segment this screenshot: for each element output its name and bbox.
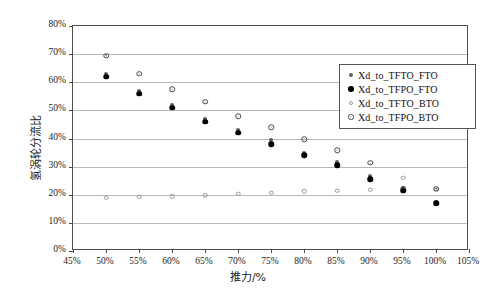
data-point (268, 125, 274, 131)
x-tick-mark (106, 249, 107, 253)
data-point (169, 105, 175, 111)
y-tick-label: 80% (32, 19, 66, 29)
y-tick-mark (69, 195, 73, 196)
x-tick-mark (337, 249, 338, 253)
data-point (400, 188, 406, 194)
gridline (73, 167, 467, 168)
y-tick-label: 0% (32, 244, 66, 254)
data-point (335, 188, 340, 193)
x-tick-mark (73, 249, 74, 253)
x-tick-mark (436, 249, 437, 253)
data-point (368, 187, 373, 192)
data-point (367, 160, 373, 166)
data-point (269, 190, 274, 195)
y-tick-label: 20% (32, 188, 66, 198)
x-tick-mark (205, 249, 206, 253)
data-point (301, 153, 307, 159)
x-tick-label: 105% (448, 256, 488, 266)
x-tick-mark (304, 249, 305, 253)
data-point (236, 192, 241, 197)
y-tick-label: 50% (32, 103, 66, 113)
data-point (302, 189, 307, 194)
y-tick-label: 40% (32, 132, 66, 142)
data-point (433, 186, 439, 192)
y-tick-mark (69, 139, 73, 140)
data-point (103, 53, 109, 59)
x-tick-mark (370, 249, 371, 253)
data-point (202, 99, 208, 105)
x-tick-mark (403, 249, 404, 253)
y-axis-title: 氢涡轮分流比 (27, 115, 43, 181)
y-tick-mark (69, 167, 73, 168)
y-tick-mark (69, 26, 73, 27)
plot-area: Xd_to_TFTO_FTOXd_to_TFPO_FTOXd_to_TFTO_B… (72, 25, 468, 250)
data-point (136, 91, 142, 97)
legend-item: Xd_to_TFPO_FTO (344, 82, 471, 96)
legend-label: Xd_to_TFTO_FTO (358, 70, 438, 81)
x-axis-title: 推力/% (0, 268, 496, 284)
data-point (367, 177, 373, 183)
legend-marker-icon (344, 110, 358, 124)
y-tick-mark (69, 82, 73, 83)
legend-item: Xd_to_TFPO_BTO (344, 110, 471, 124)
data-point (268, 141, 274, 147)
data-point (235, 113, 241, 119)
x-tick-mark (469, 249, 470, 253)
data-point (433, 200, 439, 206)
chart-legend: Xd_to_TFTO_FTOXd_to_TFPO_FTOXd_to_TFTO_B… (339, 64, 476, 129)
y-tick-mark (69, 54, 73, 55)
data-point (202, 119, 208, 125)
data-point (301, 136, 307, 142)
gridline (73, 195, 467, 196)
data-point (203, 193, 208, 198)
y-tick-label: 30% (32, 160, 66, 170)
x-tick-mark (271, 249, 272, 253)
x-tick-mark (139, 249, 140, 253)
legend-label: Xd_to_TFTO_BTO (358, 98, 439, 109)
data-point (235, 130, 241, 136)
legend-marker-icon (344, 68, 358, 82)
x-tick-mark (172, 249, 173, 253)
data-point (169, 87, 175, 93)
y-tick-label: 10% (32, 216, 66, 226)
gridline (73, 54, 467, 55)
y-tick-mark (69, 110, 73, 111)
legend-item: Xd_to_TFTO_BTO (344, 96, 471, 110)
y-tick-mark (69, 223, 73, 224)
legend-item: Xd_to_TFTO_FTO (344, 68, 471, 82)
data-point (170, 194, 175, 199)
data-point (334, 162, 340, 168)
data-point (334, 148, 340, 154)
legend-label: Xd_to_TFPO_FTO (358, 84, 438, 95)
x-tick-mark (238, 249, 239, 253)
legend-label: Xd_to_TFPO_BTO (358, 112, 439, 123)
legend-marker-icon (344, 82, 358, 96)
legend-marker-icon (344, 96, 358, 110)
scatter-chart: 氢涡轮分流比 0%10%20%30%40%50%60%70%80% Xd_to_… (0, 0, 496, 295)
data-point (401, 176, 406, 181)
data-point (136, 71, 142, 77)
gridline (73, 223, 467, 224)
data-point (137, 194, 142, 199)
data-point (103, 74, 109, 80)
y-tick-label: 60% (32, 75, 66, 85)
data-point (104, 195, 109, 200)
y-tick-label: 70% (32, 47, 66, 57)
